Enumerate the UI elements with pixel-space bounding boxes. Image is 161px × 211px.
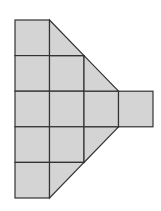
diagram-shapes bbox=[15, 20, 153, 198]
grid-square bbox=[50, 91, 85, 127]
grid-square bbox=[15, 127, 50, 163]
grid-square bbox=[50, 56, 85, 92]
grid-square bbox=[50, 127, 85, 163]
funnel-grid-diagram bbox=[0, 0, 161, 211]
grid-half-triangle bbox=[84, 127, 119, 163]
grid-square bbox=[15, 56, 50, 92]
grid-half-triangle bbox=[50, 20, 85, 56]
grid-square bbox=[15, 162, 50, 198]
grid-square bbox=[15, 91, 50, 127]
grid-half-triangle bbox=[84, 56, 119, 92]
grid-square bbox=[119, 91, 154, 127]
grid-square bbox=[15, 20, 50, 56]
grid-half-triangle bbox=[50, 162, 85, 198]
grid-square bbox=[84, 91, 119, 127]
